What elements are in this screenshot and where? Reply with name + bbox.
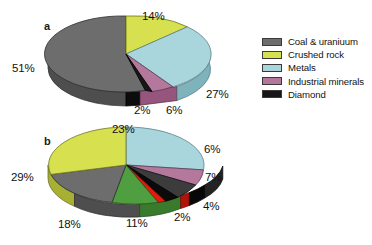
pie-b-label-nickel: 6% bbox=[204, 143, 220, 155]
legend-a-label-4: Diamond bbox=[288, 89, 326, 100]
legend-a-label-3: Industrial minerals bbox=[288, 76, 364, 87]
pie-b-label-bauxite: 2% bbox=[174, 211, 190, 223]
pie-a-label-metals: 27% bbox=[206, 88, 228, 100]
pie-b-label-gold: 18% bbox=[58, 218, 80, 230]
pie-b-label-pgms: 4% bbox=[203, 200, 219, 212]
panel-b: b bbox=[0, 118, 372, 245]
pie-a-label-coal: 51% bbox=[12, 62, 34, 74]
legend-a-item-4: Diamond bbox=[262, 88, 364, 101]
legend-a-label-2: Metals bbox=[288, 62, 316, 73]
legend-a-swatch-2 bbox=[262, 64, 282, 72]
legend-a-label-1: Crushed rock bbox=[288, 49, 344, 60]
pie-b-label-other: 11% bbox=[126, 217, 148, 229]
pie-chart-b: 23% 6% 7% 4% 2% 11% 18% 29% bbox=[0, 118, 250, 240]
legend-a-swatch-1 bbox=[262, 51, 282, 59]
pie-a-label-diamond: 2% bbox=[134, 104, 150, 116]
legend-a-item-0: Coal & uraniuum bbox=[262, 35, 364, 48]
pie-b-label-zinc-lead: 7% bbox=[205, 171, 221, 183]
legend-a-swatch-3 bbox=[262, 77, 282, 85]
legend-a: Coal & uraniuum Crushed rock Metals Indu… bbox=[262, 35, 364, 101]
pie-b-label-copper: 23% bbox=[112, 123, 134, 135]
pie-a-label-crushed-rock: 14% bbox=[142, 10, 164, 22]
figure-two-pie-charts: a bbox=[0, 0, 372, 245]
pie-b-label-iron-ore: 29% bbox=[11, 171, 33, 183]
pie-b-slice-copper bbox=[126, 127, 204, 170]
panel-a: a bbox=[0, 0, 372, 122]
legend-a-label-0: Coal & uraniuum bbox=[288, 36, 358, 47]
legend-a-item-3: Industrial minerals bbox=[262, 75, 364, 88]
legend-a-item-2: Metals bbox=[262, 61, 364, 74]
legend-a-item-1: Crushed rock bbox=[262, 48, 364, 61]
legend-a-swatch-4 bbox=[262, 90, 282, 98]
pie-a-label-industrial-minerals: 6% bbox=[166, 104, 182, 116]
legend-a-swatch-0 bbox=[262, 38, 282, 46]
pie-chart-a: 51% 14% 27% 6% 2% bbox=[0, 0, 250, 122]
pie-a-svg bbox=[0, 0, 250, 122]
